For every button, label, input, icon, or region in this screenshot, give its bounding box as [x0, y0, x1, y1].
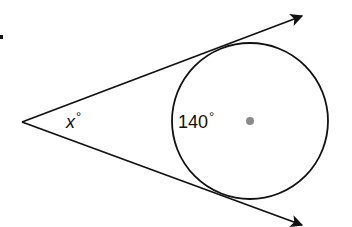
- tangent-circle-diagram: [0, 0, 352, 227]
- stray-mark: [0, 35, 3, 39]
- circle-center-dot: [246, 117, 254, 125]
- arc-measure-value: 140: [178, 112, 208, 132]
- angle-degree-symbol: °: [76, 109, 81, 124]
- upper-tangent-ray: [22, 16, 302, 122]
- arc-degree-symbol: °: [209, 109, 214, 124]
- angle-x-label: x°: [66, 113, 81, 131]
- lower-tangent-ray: [22, 122, 302, 225]
- arc-measure-label: 140°: [178, 113, 214, 131]
- angle-variable: x: [66, 112, 75, 132]
